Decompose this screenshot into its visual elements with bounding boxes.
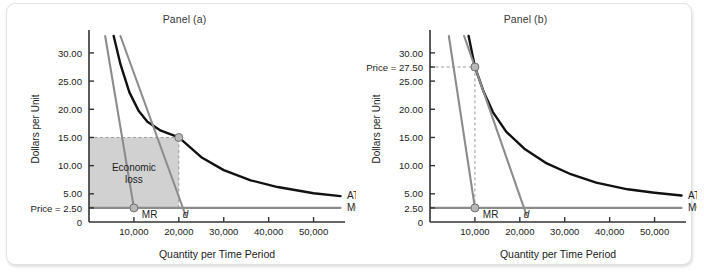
x-tick-label-2: 30,000 [550, 226, 579, 237]
x-tick-label-4: 50,000 [640, 226, 669, 237]
figure-stage: Panel (a) 30.0025.0020.0015.0010.005.00P… [0, 0, 704, 279]
inline-label-d: d [183, 209, 189, 220]
y-tick-label-7: 2.50 [404, 203, 423, 214]
y-axis-title: Dollars per Unit [371, 94, 382, 163]
economic-loss-line-0: Economic [112, 162, 156, 173]
clipped-layer [89, 36, 341, 215]
y-tick-label-1: 25.00 [58, 76, 82, 87]
y-tick-label-6: 5.00 [404, 188, 423, 199]
marker-mr-mc-intersection [471, 204, 479, 212]
x-axis-title: Quantity per Time Period [500, 248, 616, 260]
curve-label-mc-avc: MC = AVC [688, 202, 697, 213]
figure-frame: Panel (a) 30.0025.0020.0015.0010.005.00P… [6, 3, 692, 265]
panel-b: Panel (b) 30.00Price = 27.5025.0020.0015… [354, 4, 697, 266]
y-tick-label-5: 10.00 [399, 160, 423, 171]
y-tick-label-7: 0 [77, 217, 82, 228]
y-axis-title: Dollars per Unit [30, 94, 41, 163]
x-tick-label-3: 40,000 [254, 226, 283, 237]
marker-mr-mc-intersection [130, 204, 138, 212]
y-tick-label-0: 30.00 [399, 48, 423, 59]
curve-label-atc: ATC [688, 190, 697, 201]
x-tick-label-2: 30,000 [209, 226, 238, 237]
y-tick-label-4: 10.00 [58, 160, 82, 171]
inline-label-d: d [524, 209, 530, 220]
marker-d-atc-intersection [175, 133, 183, 141]
y-tick-label-2: 20.00 [58, 104, 82, 115]
x-tick-label-0: 10,000 [460, 226, 489, 237]
y-tick-label-5: 5.00 [63, 188, 82, 199]
panel-a: Panel (a) 30.0025.0020.0015.0010.005.00P… [13, 4, 356, 266]
y-tick-label-1: Price = 27.50 [366, 62, 423, 73]
x-tick-label-4: 50,000 [299, 226, 328, 237]
inline-label-mr: MR [483, 209, 499, 220]
series-atc [469, 36, 682, 196]
x-tick-label-1: 20,000 [164, 226, 193, 237]
series-mr [449, 36, 475, 208]
x-axis-title: Quantity per Time Period [159, 248, 275, 260]
y-tick-label-8: 0 [418, 217, 423, 228]
y-tick-label-3: 15.00 [58, 132, 82, 143]
economic-loss-line-1: loss [125, 174, 143, 185]
marker-d-atc-tangency [471, 63, 479, 71]
y-tick-label-0: 30.00 [58, 48, 82, 59]
x-tick-label-0: 10,000 [119, 226, 148, 237]
x-tick-label-3: 40,000 [595, 226, 624, 237]
y-tick-label-3: 20.00 [399, 104, 423, 115]
panel-a-plot: 30.0025.0020.0015.0010.005.00Price = 2.5… [13, 4, 356, 266]
inline-label-mr: MR [142, 209, 158, 220]
y-tick-label-4: 15.00 [399, 132, 423, 143]
clipped-layer [430, 36, 682, 215]
panel-b-plot: 30.00Price = 27.5025.0020.0015.0010.005.… [354, 4, 697, 266]
x-tick-label-1: 20,000 [505, 226, 534, 237]
y-tick-label-2: 25.00 [399, 76, 423, 87]
y-tick-label-6: Price = 2.50 [31, 203, 82, 214]
